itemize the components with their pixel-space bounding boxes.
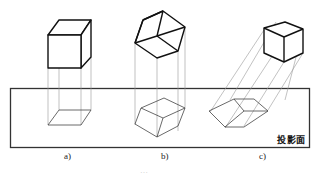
panel-c-label: c) (259, 151, 266, 161)
projection-diagram (0, 0, 318, 173)
cube-b (135, 11, 185, 58)
projection-plane (11, 89, 310, 148)
panel-b-label: b) (161, 151, 169, 161)
panel-b (135, 11, 185, 137)
projection-b (135, 98, 185, 137)
projection-plane-label: 投影面 (277, 133, 306, 146)
cube-a (48, 20, 91, 68)
panel-c (209, 22, 303, 128)
panel-a (48, 20, 91, 125)
panel-a-label: a) (64, 151, 71, 161)
projection-c (209, 99, 268, 127)
projection-a (48, 110, 91, 125)
cube-c (264, 22, 303, 62)
figure-caption: … (140, 166, 148, 173)
